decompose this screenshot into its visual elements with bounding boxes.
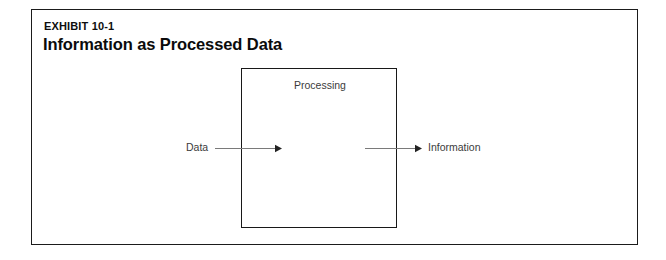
input-arrow [215,145,282,152]
exhibit-figure: EXHIBIT 10-1 Information as Processed Da… [0,0,666,260]
output-arrow [365,145,422,152]
flow-arrows [0,0,666,260]
input-label: Data [186,141,208,154]
output-label: Information [428,141,481,154]
